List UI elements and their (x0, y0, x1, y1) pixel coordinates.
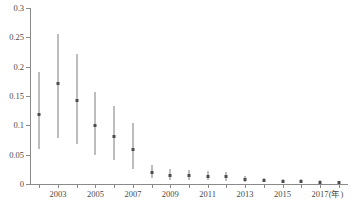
y-axis (30, 8, 31, 184)
chart-figure: 00.050.10.150.20.250.3 20032005200720092… (0, 0, 356, 208)
x-tick-mark (77, 184, 78, 188)
x-tick-label: 2013 (237, 190, 254, 199)
data-point-marker (337, 181, 340, 184)
y-tick-label: 0.05 (9, 150, 24, 159)
x-tick-mark (39, 184, 40, 188)
y-tick-label: 0.1 (13, 121, 24, 130)
data-point-marker (206, 175, 209, 178)
error-bar (58, 34, 59, 138)
y-tick-mark (26, 67, 30, 68)
x-axis-title: (年) (329, 190, 344, 199)
x-tick-mark (95, 184, 96, 188)
y-tick-mark (26, 96, 30, 97)
data-point-marker (169, 174, 172, 177)
error-bar (114, 106, 115, 160)
x-tick-mark (339, 184, 340, 188)
data-point-marker (262, 179, 265, 182)
error-bar (132, 123, 133, 169)
x-tick-mark (283, 184, 284, 188)
data-point-marker (318, 181, 321, 184)
x-tick-mark (320, 184, 321, 188)
x-tick-mark (133, 184, 134, 188)
data-point-marker (225, 175, 228, 178)
x-tick-label: 2015 (274, 190, 291, 199)
x-tick-mark (170, 184, 171, 188)
error-bar (95, 92, 96, 155)
data-point-marker (281, 180, 284, 183)
data-point-marker (113, 135, 116, 138)
data-point-marker (131, 148, 134, 151)
y-tick-label: 0 (20, 180, 24, 189)
x-tick-mark (189, 184, 190, 188)
x-tick-mark (114, 184, 115, 188)
data-point-marker (188, 174, 191, 177)
data-point-marker (38, 113, 41, 116)
y-tick-label: 0.15 (9, 92, 24, 101)
data-point-marker (57, 82, 60, 85)
data-point-marker (94, 124, 97, 127)
x-tick-mark (58, 184, 59, 188)
x-tick-mark (208, 184, 209, 188)
error-bar (39, 72, 40, 149)
data-point-marker (75, 99, 78, 102)
y-tick-label: 0.2 (13, 62, 24, 71)
y-tick-mark (26, 125, 30, 126)
y-tick-label: 0.3 (13, 4, 24, 13)
y-tick-mark (26, 184, 30, 185)
data-point-marker (300, 180, 303, 183)
data-point-marker (150, 171, 153, 174)
data-point-marker (244, 178, 247, 181)
x-tick-mark (245, 184, 246, 188)
y-tick-mark (26, 37, 30, 38)
plot-area (30, 8, 348, 184)
x-tick-label: 2007 (124, 190, 141, 199)
y-tick-label: 0.25 (9, 33, 24, 42)
x-tick-label: 2017 (311, 190, 328, 199)
x-tick-mark (264, 184, 265, 188)
x-tick-label: 2003 (50, 190, 67, 199)
x-tick-mark (226, 184, 227, 188)
y-tick-mark (26, 8, 30, 9)
y-tick-mark (26, 155, 30, 156)
x-tick-mark (301, 184, 302, 188)
x-tick-mark (152, 184, 153, 188)
x-tick-label: 2009 (162, 190, 179, 199)
x-tick-label: 2011 (199, 190, 216, 199)
x-tick-label: 2005 (87, 190, 104, 199)
